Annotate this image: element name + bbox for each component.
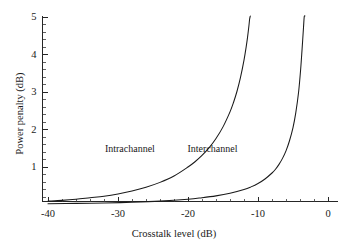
x-tick-label: 0 xyxy=(325,209,330,220)
y-tick-label: 5 xyxy=(0,12,37,23)
axes-group xyxy=(43,16,339,202)
y-axis-title: Power penalty (dB) xyxy=(14,39,25,189)
curve-interchannel xyxy=(48,16,305,204)
data-curves xyxy=(48,16,305,204)
curve-label-interchannel: Interchannel xyxy=(188,142,238,153)
x-axis-title: Crosstalk level (dB) xyxy=(0,228,348,239)
y-axis-ticks xyxy=(43,17,48,197)
curve-intrachannel xyxy=(48,16,250,201)
x-tick-label: -30 xyxy=(111,209,125,220)
chart-figure: -40-30-20-100 12345 IntrachannelIntercha… xyxy=(0,0,348,249)
x-tick-label: -40 xyxy=(41,209,55,220)
x-tick-label: -20 xyxy=(181,209,195,220)
curve-label-intrachannel: Intrachannel xyxy=(105,142,155,153)
x-tick-label: -10 xyxy=(251,209,265,220)
